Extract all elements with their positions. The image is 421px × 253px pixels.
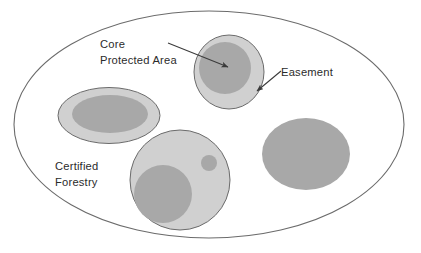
- certified-forestry-label-line1: Certified: [55, 160, 98, 172]
- bottom-parcel: [130, 130, 230, 230]
- core-protected-area-label-line1: Core: [100, 38, 125, 50]
- easement-label: Easement: [281, 66, 334, 78]
- left-parcel: [58, 88, 160, 144]
- top-parcel: [194, 35, 264, 109]
- right-parcel-core-protected-area: [262, 118, 350, 190]
- top-parcel-core-protected-area: [199, 42, 251, 94]
- conservation-area-diagram: Core Protected Area Easement Certified F…: [0, 0, 421, 253]
- certified-forestry-label-line2: Forestry: [55, 176, 98, 188]
- core-protected-area-label-line2: Protected Area: [100, 54, 177, 66]
- left-parcel-core-protected-area: [72, 95, 148, 133]
- bottom-parcel-core-protected-area-small: [201, 155, 217, 171]
- right-parcel: [262, 118, 350, 190]
- diagram-canvas: Core Protected Area Easement Certified F…: [0, 0, 421, 253]
- bottom-parcel-core-protected-area: [134, 165, 192, 223]
